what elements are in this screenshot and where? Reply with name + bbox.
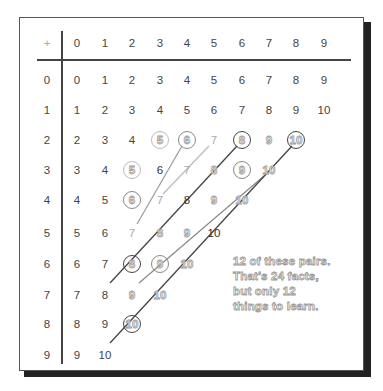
sum-cell: 7 — [256, 70, 282, 90]
sum-cell: 10 — [256, 160, 282, 180]
sum-cell: 1 — [64, 100, 90, 120]
column-header: 5 — [201, 33, 227, 53]
row-header: 3 — [34, 160, 60, 180]
operator-symbol: + — [34, 33, 60, 53]
sum-cell: 5 — [201, 70, 227, 90]
sum-cell: 0 — [64, 70, 90, 90]
sum-cell: 8 — [147, 223, 173, 243]
sum-cell: 3 — [92, 130, 118, 150]
sum-cell: 8 — [256, 100, 282, 120]
sum-cell: 6 — [64, 254, 90, 274]
sum-cell: 3 — [147, 70, 173, 90]
row-header: 2 — [34, 130, 60, 150]
sum-cell: 9 — [174, 223, 200, 243]
note-line-2: That’s 24 facts, — [233, 269, 363, 284]
row-header: 1 — [34, 100, 60, 120]
column-header: 4 — [174, 33, 200, 53]
sum-cell: 10 — [92, 345, 118, 365]
sum-cell: 6 — [147, 160, 173, 180]
sum-cell: 10 — [283, 130, 309, 150]
note-line-4: things to learn. — [233, 299, 363, 314]
sum-cell: 2 — [119, 70, 145, 90]
column-header: 6 — [229, 33, 255, 53]
sum-cell: 4 — [64, 190, 90, 210]
sum-cell: 2 — [64, 130, 90, 150]
sum-cell: 5 — [119, 160, 145, 180]
sum-cell: 8 — [174, 190, 200, 210]
sum-cell: 9 — [92, 314, 118, 334]
sum-cell: 5 — [147, 130, 173, 150]
sum-cell: 2 — [92, 100, 118, 120]
row-header: 7 — [34, 285, 60, 305]
row-header: 8 — [34, 314, 60, 334]
column-header: 3 — [147, 33, 173, 53]
sum-cell: 10 — [311, 100, 337, 120]
column-header: 1 — [92, 33, 118, 53]
sum-cell: 6 — [92, 223, 118, 243]
note-line-1: 12 of these pairs. — [233, 254, 363, 269]
row-header: 6 — [34, 254, 60, 274]
row-header: 9 — [34, 345, 60, 365]
sum-cell: 9 — [119, 285, 145, 305]
sum-cell: 4 — [174, 70, 200, 90]
annotation-note: 12 of these pairs. That’s 24 facts, but … — [233, 254, 363, 314]
column-header: 7 — [256, 33, 282, 53]
column-header: 2 — [119, 33, 145, 53]
sum-cell: 7 — [119, 223, 145, 243]
sum-cell: 7 — [147, 190, 173, 210]
sum-cell: 4 — [147, 100, 173, 120]
sum-cell: 10 — [119, 314, 145, 334]
sum-cell: 6 — [201, 100, 227, 120]
sum-cell: 5 — [92, 190, 118, 210]
sum-cell: 9 — [229, 160, 255, 180]
sum-cell: 7 — [92, 254, 118, 274]
sum-cell: 7 — [201, 130, 227, 150]
column-header: 0 — [64, 33, 90, 53]
sum-cell: 1 — [92, 70, 118, 90]
sum-cell: 9 — [201, 190, 227, 210]
sum-cell: 3 — [119, 100, 145, 120]
sum-cell: 9 — [311, 70, 337, 90]
sum-cell: 4 — [92, 160, 118, 180]
sum-cell: 6 — [229, 70, 255, 90]
header-row-divider — [37, 59, 351, 61]
sum-cell: 7 — [64, 285, 90, 305]
note-line-3: but only 12 — [233, 284, 363, 299]
sum-cell: 9 — [283, 100, 309, 120]
sum-cell: 10 — [174, 254, 200, 274]
row-header: 5 — [34, 223, 60, 243]
sum-cell: 3 — [64, 160, 90, 180]
sum-cell: 8 — [283, 70, 309, 90]
sum-cell: 9 — [256, 130, 282, 150]
header-column-divider — [61, 31, 63, 364]
column-header: 9 — [311, 33, 337, 53]
sum-cell: 8 — [64, 314, 90, 334]
sum-cell: 8 — [229, 130, 255, 150]
sum-cell: 4 — [119, 130, 145, 150]
column-header: 8 — [283, 33, 309, 53]
sum-cell: 6 — [174, 130, 200, 150]
sum-cell: 6 — [119, 190, 145, 210]
sum-cell: 10 — [147, 285, 173, 305]
row-header: 4 — [34, 190, 60, 210]
sum-cell: 10 — [229, 190, 255, 210]
sum-cell: 10 — [201, 223, 227, 243]
sum-cell: 9 — [147, 254, 173, 274]
sum-cell: 5 — [174, 100, 200, 120]
sum-cell: 7 — [174, 160, 200, 180]
sum-cell: 8 — [119, 254, 145, 274]
sum-cell: 8 — [92, 285, 118, 305]
row-header: 0 — [34, 70, 60, 90]
sum-cell: 9 — [64, 345, 90, 365]
sum-cell: 8 — [201, 160, 227, 180]
sum-cell: 5 — [64, 223, 90, 243]
sum-cell: 7 — [229, 100, 255, 120]
